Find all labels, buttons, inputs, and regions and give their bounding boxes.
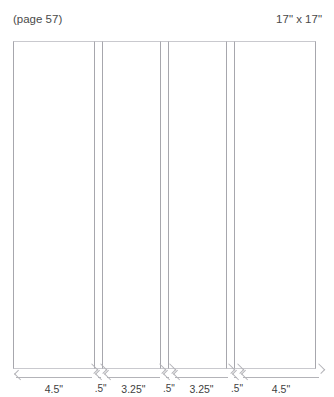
- panel-3: [102, 41, 161, 369]
- dimension-rail: 4.5".5"3.25".5"3.25".5"4.5": [13, 372, 322, 397]
- finished-size-label: 17" x 17": [276, 13, 322, 25]
- dimension-segment-7: 4.5": [240, 372, 322, 397]
- dimension-segment-3: 3.25": [104, 372, 163, 397]
- dimension-label: .5": [231, 383, 240, 394]
- dimension-label: 4.5": [13, 383, 95, 395]
- dimension-line: [16, 377, 92, 378]
- arrow-left-icon: [14, 369, 25, 380]
- dimension-segment-2: .5": [95, 372, 104, 397]
- dimension-label: 4.5": [240, 383, 322, 395]
- dimension-line: [107, 377, 160, 378]
- arrow-right-icon: [315, 363, 326, 374]
- page-reference: (page 57): [13, 13, 62, 25]
- panel-5: [168, 41, 227, 369]
- dimension-label: 3.25": [104, 383, 163, 395]
- dimension-segment-5: 3.25": [172, 372, 231, 397]
- dimension-label: .5": [95, 383, 104, 394]
- panel-row: [13, 41, 322, 369]
- arrow-left-icon: [104, 369, 115, 380]
- panel-7: [234, 41, 316, 369]
- dimension-segment-6: .5": [231, 372, 240, 397]
- page-title: HERRINGBONE STITCH: [13, 0, 177, 6]
- dimension-label: 3.25": [172, 383, 231, 395]
- dimension-segment-4: .5": [163, 372, 172, 397]
- dimension-segment-1: 4.5": [13, 372, 95, 397]
- panel-layout-diagram: [13, 41, 322, 369]
- dimension-line: [175, 377, 228, 378]
- dimension-row: 4.5".5"3.25".5"3.25".5"4.5": [13, 372, 322, 397]
- dimension-label: .5": [163, 383, 172, 394]
- arrow-left-icon: [241, 369, 252, 380]
- panel-1: [13, 41, 95, 369]
- dimension-line: [243, 377, 319, 378]
